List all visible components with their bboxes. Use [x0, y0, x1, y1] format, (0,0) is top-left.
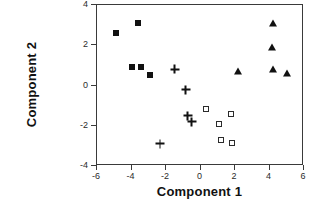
data-point-plus — [155, 139, 164, 148]
data-point-open-square — [216, 121, 222, 127]
y-tick-label: -2 — [68, 120, 88, 130]
y-axis-title: Component 2 — [24, 4, 39, 165]
data-point-open-square — [218, 137, 224, 143]
y-tick — [91, 44, 96, 45]
y-tick — [91, 4, 96, 5]
data-point-filled-triangle — [283, 70, 291, 77]
data-point-filled-triangle — [268, 44, 276, 51]
data-point-filled-square — [147, 72, 153, 78]
x-tick — [269, 165, 270, 170]
data-point-filled-triangle — [234, 68, 242, 75]
y-tick-label: 4 — [68, 0, 88, 9]
x-tick-label: -4 — [126, 171, 134, 181]
x-tick — [96, 165, 97, 170]
x-tick-label: 2 — [231, 171, 236, 181]
x-tick-label: 0 — [197, 171, 202, 181]
x-tick — [165, 165, 166, 170]
x-tick — [200, 165, 201, 170]
y-tick-label: 2 — [68, 39, 88, 49]
x-tick-label: 4 — [266, 171, 271, 181]
data-point-filled-triangle — [269, 66, 277, 73]
data-point-plus — [181, 85, 190, 94]
data-point-open-square — [229, 140, 235, 146]
data-point-filled-square — [113, 30, 119, 36]
y-tick-label: -4 — [68, 160, 88, 170]
data-point-filled-square — [135, 20, 141, 26]
x-tick — [234, 165, 235, 170]
y-tick — [91, 125, 96, 126]
data-point-plus — [187, 117, 196, 126]
y-tick — [91, 85, 96, 86]
data-point-plus — [170, 65, 179, 74]
scatter-plot-figure: -6-4-20246 -4-2024 Component 1 Component… — [0, 0, 316, 221]
x-tick-label: 6 — [300, 171, 305, 181]
data-point-open-square — [203, 106, 209, 112]
x-axis-title: Component 1 — [96, 184, 303, 199]
y-tick-label: 0 — [68, 80, 88, 90]
x-tick — [303, 165, 304, 170]
data-point-filled-square — [138, 64, 144, 70]
x-tick-label: -6 — [92, 171, 100, 181]
x-tick-label: -2 — [161, 171, 169, 181]
data-points-layer — [97, 5, 302, 164]
data-point-open-square — [228, 111, 234, 117]
x-tick — [131, 165, 132, 170]
data-point-filled-square — [129, 64, 135, 70]
y-tick — [91, 165, 96, 166]
plot-frame — [96, 4, 303, 165]
data-point-filled-triangle — [269, 20, 277, 27]
